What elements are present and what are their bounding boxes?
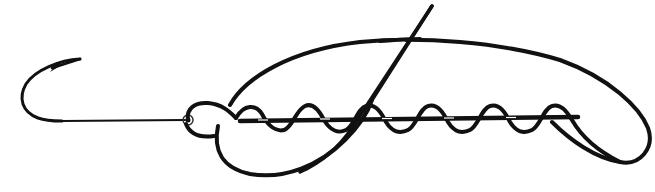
hook-shank [62, 120, 185, 121]
standing-line [240, 117, 578, 121]
hook [22, 58, 193, 125]
knot-diagram [0, 0, 655, 192]
loop-upper-arc-over [380, 39, 420, 41]
tag-diagonal [300, 6, 432, 172]
loop-upper-arc [230, 40, 650, 163]
